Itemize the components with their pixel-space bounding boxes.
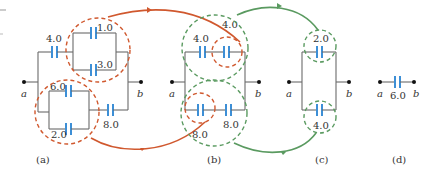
- node-b-dot: [347, 80, 351, 84]
- cap-8-label: 8.0: [103, 119, 119, 130]
- cap-4-label: 4.0: [313, 120, 329, 131]
- arrow-head-icon: [281, 152, 286, 155]
- caption-a: (a): [36, 154, 50, 165]
- node-b-label: b: [255, 88, 261, 99]
- panel-d: a b 6.0 (d): [377, 76, 419, 165]
- caption-c: (c): [315, 154, 329, 165]
- edge-marks: [0, 10, 6, 34]
- equivalent-bottom-circle: [185, 93, 215, 123]
- reduction-arrow-top: [237, 7, 318, 30]
- cap-4-label: 4.0: [46, 33, 62, 44]
- node-b-label: b: [346, 88, 352, 99]
- arrow-head-icon: [147, 7, 152, 13]
- node-a-label: a: [286, 88, 292, 99]
- node-a-dot: [170, 80, 174, 84]
- caption-b: (b): [207, 154, 221, 165]
- cap-4-equiv-label: 4.0: [222, 19, 238, 30]
- node-a-dot: [287, 80, 291, 84]
- node-a-label: a: [169, 88, 175, 99]
- cap-3-label: 3.0: [97, 59, 113, 70]
- cap-8-label: 8.0: [223, 119, 239, 130]
- cap-2-label: 2.0: [313, 33, 329, 44]
- node-a-label: a: [21, 88, 27, 99]
- node-b-label: b: [137, 88, 143, 99]
- panel-b: a b 4.0 4.0 8.0 8.0 (b): [169, 15, 261, 165]
- node-a-dot: [378, 80, 382, 84]
- cap-1-label: 1.0: [97, 22, 113, 33]
- cap-2-label: 2.0: [51, 129, 67, 140]
- reduction-arrow-bottom: [234, 133, 316, 152]
- node-b-dot: [139, 80, 143, 84]
- series-group-bottom-circle: [181, 80, 247, 146]
- reduction-arrow-top: [108, 10, 240, 42]
- cap-8-equiv-label: 8.0: [192, 129, 208, 140]
- cap-4-label: 4.0: [193, 33, 209, 44]
- caption-d: (d): [392, 154, 406, 165]
- cap-6-label: 6.0: [390, 90, 406, 101]
- panel-a: a b 4.0 1.0 3.0 6.0: [21, 18, 143, 165]
- node-a-label: a: [377, 88, 383, 99]
- capacitor-reduction-diagram: a b 4.0 1.0 3.0 6.0: [0, 0, 434, 173]
- node-a-dot: [22, 80, 26, 84]
- node-b-dot: [257, 80, 261, 84]
- node-b-dot: [412, 80, 416, 84]
- node-b-label: b: [413, 88, 419, 99]
- panel-c: a b 2.0 4.0 (c): [286, 30, 352, 165]
- cap-6-label: 6.0: [50, 81, 66, 92]
